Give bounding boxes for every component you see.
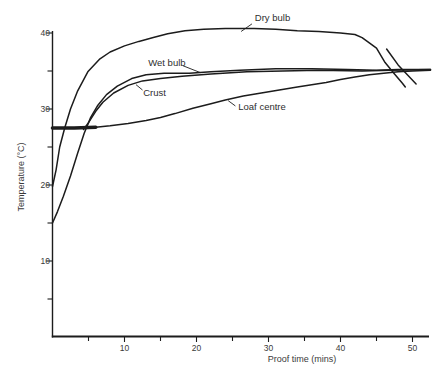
series-wet-bulb	[53, 69, 431, 223]
series-dry-bulb-end-trace	[387, 49, 417, 84]
y-axis-title: Temperature (°C)	[16, 142, 26, 211]
series-loaf-centre-thick-start	[53, 127, 96, 128]
y-tick-label-10: 10	[41, 256, 51, 266]
annotation-wet-bulb: Wet bulb	[148, 57, 185, 68]
leader-line-loaf-centre	[228, 101, 235, 106]
y-tick-label-30: 30	[41, 104, 51, 114]
proof-temperature-figure: 102030405010203040Proof time (mins)Tempe…	[0, 0, 442, 382]
y-tick-label-40: 40	[41, 28, 51, 38]
x-tick-label-20: 20	[192, 343, 202, 353]
x-tick-label-10: 10	[120, 343, 130, 353]
y-tick-label-20: 20	[41, 180, 51, 190]
leader-line-crust	[136, 85, 142, 90]
annotation-dry-bulb: Dry bulb	[255, 12, 290, 23]
x-tick-label-30: 30	[264, 343, 274, 353]
series-crust	[84, 70, 431, 130]
annotation-crust: Crust	[143, 87, 166, 98]
x-tick-label-50: 50	[408, 343, 418, 353]
proof-chart-svg: 102030405010203040Proof time (mins)Tempe…	[0, 0, 442, 382]
x-tick-label-40: 40	[336, 343, 346, 353]
series-dry-bulb	[53, 28, 406, 186]
series-loaf-centre	[53, 70, 431, 128]
x-axis-title: Proof time (mins)	[268, 354, 337, 364]
annotation-loaf-centre: Loaf centre	[238, 101, 286, 112]
